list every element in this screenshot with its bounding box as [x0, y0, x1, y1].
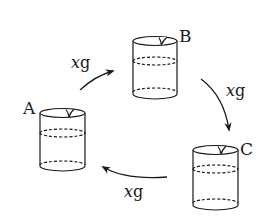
label-c: C [240, 139, 253, 159]
beaker-a [40, 109, 85, 172]
arrow-b-to-c [201, 79, 229, 130]
beaker-c [193, 146, 238, 211]
beaker-cycle-diagram: B A C xg xg xg [0, 0, 269, 223]
beaker-b [133, 37, 177, 100]
label-a: A [22, 98, 36, 118]
arrow-c-to-a [103, 167, 167, 178]
transfer-label-a-to-b: xg [71, 53, 90, 72]
arrow-a-to-b [80, 71, 113, 90]
transfer-label-b-to-c: xg [226, 81, 245, 100]
transfer-label-c-to-a: xg [124, 182, 143, 201]
label-b: B [179, 26, 192, 46]
